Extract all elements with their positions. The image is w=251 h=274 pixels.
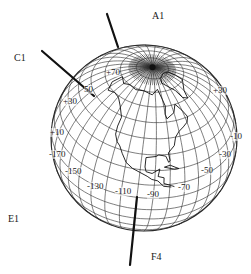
degree-label: -110 bbox=[115, 187, 131, 196]
globe-diagram: A1 C1 E1 F4 +70 50 +30 +10 -170 -150 -13… bbox=[0, 0, 251, 274]
degree-label: -90 bbox=[147, 190, 159, 199]
label-f4: F4 bbox=[151, 252, 162, 262]
degree-label: -130 bbox=[87, 182, 104, 191]
globe-graticule bbox=[0, 0, 251, 274]
degree-label: +30 bbox=[63, 97, 77, 106]
degree-label: +70 bbox=[106, 68, 120, 77]
degree-label: -30 bbox=[219, 150, 231, 159]
degree-label: -50 bbox=[201, 166, 213, 175]
north-pole-marker bbox=[150, 64, 156, 70]
degree-label: +30 bbox=[213, 86, 227, 95]
label-c1: C1 bbox=[14, 53, 26, 63]
pointer-a1-line bbox=[107, 14, 118, 47]
degree-label: -170 bbox=[49, 150, 66, 159]
label-e1: E1 bbox=[8, 214, 19, 224]
label-a1: A1 bbox=[152, 11, 164, 21]
degree-label: 50 bbox=[84, 85, 93, 94]
degree-label: -70 bbox=[178, 183, 190, 192]
degree-label: -10 bbox=[230, 132, 242, 141]
degree-label: -150 bbox=[65, 167, 82, 176]
degree-label: +10 bbox=[50, 128, 64, 137]
